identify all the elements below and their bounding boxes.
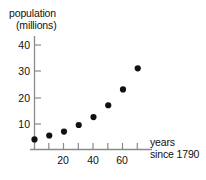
population-scatter-chart: population (millions) years since 1790 4… — [0, 0, 206, 180]
data-point-group — [31, 65, 140, 142]
data-point — [105, 102, 111, 108]
data-point — [31, 136, 37, 142]
y-axis-ticks — [35, 45, 42, 124]
data-point — [46, 132, 52, 138]
data-point — [61, 128, 67, 134]
data-point — [90, 114, 96, 120]
x-axis-ticks — [49, 143, 138, 150]
plot-area — [0, 0, 206, 180]
data-point — [120, 86, 126, 92]
data-point — [76, 122, 82, 128]
data-point — [135, 65, 141, 71]
